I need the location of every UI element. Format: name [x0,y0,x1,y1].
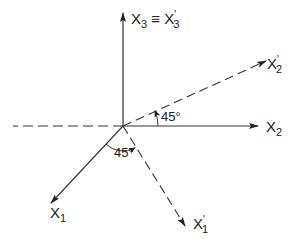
lower-angle-label: 45° [114,146,134,159]
upper-angle-arc [155,111,158,126]
coordinate-rotation-diagram [0,0,300,239]
x1-prime-axis [123,126,185,226]
x1-label: X1 [50,205,66,224]
x2-prime-label: X'2 [267,55,282,75]
x1-axis [51,126,123,203]
x1-prime-label: X'1 [193,215,208,235]
upper-angle-label: 45° [161,110,181,123]
x3-label: X3 ≡ X'3 [131,10,179,30]
x2-prime-axis [123,61,266,126]
x2-label: X2 [266,119,282,138]
